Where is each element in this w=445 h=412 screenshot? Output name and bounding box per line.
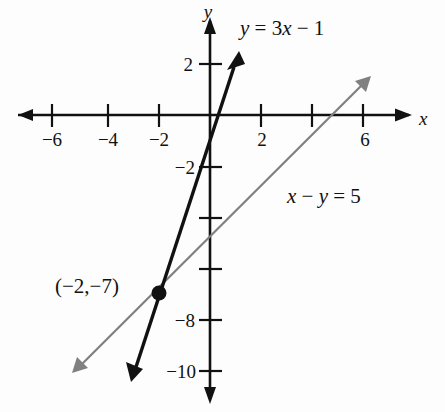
equation-label-black-line: y = 3x − 1 bbox=[240, 18, 324, 39]
eq-black-coefficient: 3 bbox=[272, 16, 283, 40]
y-tick-label-neg10: −10 bbox=[166, 362, 196, 381]
x-axis-right-arrowhead bbox=[395, 109, 412, 122]
eq-black-tail: − 1 bbox=[292, 16, 325, 40]
line-y-equals-3x-minus-1 bbox=[126, 51, 245, 382]
y-tick-label-neg8: −8 bbox=[175, 311, 195, 330]
equation-label-gray-line: x − y = 5 bbox=[287, 186, 361, 207]
eq-gray-x: x bbox=[287, 184, 296, 208]
eq-black-lhs: y bbox=[240, 16, 249, 40]
eq-black-equals: = bbox=[249, 16, 271, 40]
line-gray-segment bbox=[80, 84, 363, 366]
line-black-lower-arrowhead bbox=[126, 362, 143, 382]
graph-figure: x y −6 −4 −2 2 6 2 −2 −8 −10 y = 3x − 1 … bbox=[0, 0, 445, 412]
eq-gray-equals: = bbox=[328, 184, 350, 208]
x-axis-label: x bbox=[419, 109, 427, 128]
intersection-point-label: (−2,−7) bbox=[55, 276, 119, 297]
eq-black-variable: x bbox=[282, 16, 291, 40]
y-axis-bottom-arrowhead bbox=[204, 387, 216, 404]
y-tick-label-neg2: −2 bbox=[175, 158, 195, 177]
x-tick-label-pos6: 6 bbox=[360, 130, 370, 149]
y-axis-group bbox=[199, 17, 222, 404]
y-axis-label: y bbox=[204, 2, 212, 21]
line-x-minus-y-equals-5 bbox=[72, 76, 371, 373]
x-tick-label-neg2: −2 bbox=[149, 130, 169, 149]
eq-gray-minus: − bbox=[296, 184, 318, 208]
eq-gray-rhs: 5 bbox=[350, 184, 361, 208]
y-tick-label-pos2: 2 bbox=[184, 55, 194, 74]
line-black-upper-arrowhead bbox=[227, 51, 245, 70]
x-tick-label-pos2: 2 bbox=[257, 130, 267, 149]
x-tick-label-neg4: −4 bbox=[98, 130, 118, 149]
eq-gray-y: y bbox=[319, 184, 328, 208]
x-tick-label-neg6: −6 bbox=[42, 130, 62, 149]
graph-canvas bbox=[0, 0, 445, 412]
x-axis-left-arrowhead bbox=[18, 109, 33, 121]
intersection-point-marker bbox=[152, 286, 167, 301]
